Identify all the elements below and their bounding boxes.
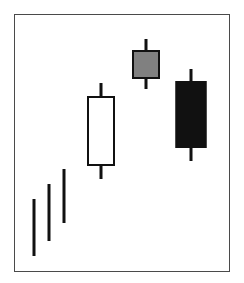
plot-area (15, 15, 229, 271)
candlestick-2-body (48, 184, 51, 241)
candlestick-4-body (87, 96, 115, 166)
candlestick-1-body (33, 199, 36, 256)
chart-frame (14, 14, 230, 272)
candlestick-6-body (176, 81, 207, 148)
candlestick-5-body (132, 50, 160, 79)
candlestick-chart-page (0, 0, 244, 283)
candlestick-3-body (63, 169, 66, 223)
